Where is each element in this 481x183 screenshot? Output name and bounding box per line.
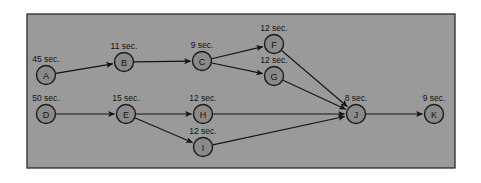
diagram-canvas: 45 sec.A11 sec.B9 sec.C12 sec.F12 sec.G5… [0, 0, 481, 183]
node-j-label: J [354, 110, 359, 120]
node-b-duration-label: 11 sec. [111, 41, 138, 51]
node-d-label: D [43, 110, 50, 120]
node-k-label: K [431, 110, 437, 120]
node-b-label: B [121, 58, 127, 68]
node-j-duration-label: 8 sec. [345, 93, 368, 103]
node-f-duration-label: 12 sec. [260, 23, 287, 33]
node-f-label: F [271, 40, 277, 50]
node-c-label: C [199, 57, 206, 67]
node-i-label: I [202, 143, 205, 153]
edge-b-to-c [134, 61, 191, 62]
node-e-duration-label: 15 sec. [112, 93, 139, 103]
node-j[interactable]: 8 sec.J [345, 93, 368, 124]
node-i-duration-label: 12 sec. [189, 126, 216, 136]
node-g-label: G [270, 72, 277, 82]
node-k-duration-label: 9 sec. [423, 93, 446, 103]
network-diagram-figure: 45 sec.A11 sec.B9 sec.C12 sec.F12 sec.G5… [0, 0, 481, 183]
node-h-label: H [200, 110, 207, 120]
node-h-duration-label: 12 sec. [189, 93, 216, 103]
node-e-label: E [123, 110, 129, 120]
node-c[interactable]: 9 sec.C [191, 40, 214, 71]
node-a-label: A [43, 71, 49, 81]
node-g-duration-label: 12 sec. [260, 55, 287, 65]
node-d-duration-label: 50 sec. [32, 93, 59, 103]
diagram-panel [27, 14, 455, 168]
node-a-duration-label: 45 sec. [32, 54, 59, 64]
node-c-duration-label: 9 sec. [191, 40, 214, 50]
node-k[interactable]: 9 sec.K [423, 93, 446, 124]
